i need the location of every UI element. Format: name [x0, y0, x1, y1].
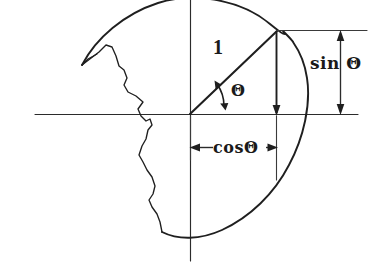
sine-label: sin Θ — [310, 53, 362, 73]
torn-paper-edge-group — [82, 45, 162, 232]
radius-label: 1 — [213, 36, 223, 59]
sin-dimension-arrowhead-bottom — [337, 104, 345, 115]
cosine-label: cosΘ — [213, 138, 258, 157]
angle-arc-arrowhead-lower — [220, 103, 228, 111]
unit-circle-diagram-svg — [0, 0, 387, 271]
sin-dimension-arrowhead-top — [337, 30, 345, 41]
radius-segment — [190, 31, 277, 114]
radius-segment-group — [190, 31, 277, 114]
angle-theta-label: Θ — [231, 81, 245, 100]
sine-segment-group — [273, 31, 281, 116]
figure-canvas: 1 Θ sin Θ cosΘ — [0, 0, 387, 271]
torn-paper-edge — [82, 45, 162, 232]
unit-circle-arc — [82, 0, 308, 238]
unit-circle-arc-group — [82, 0, 308, 238]
axes-group — [35, 0, 358, 261]
